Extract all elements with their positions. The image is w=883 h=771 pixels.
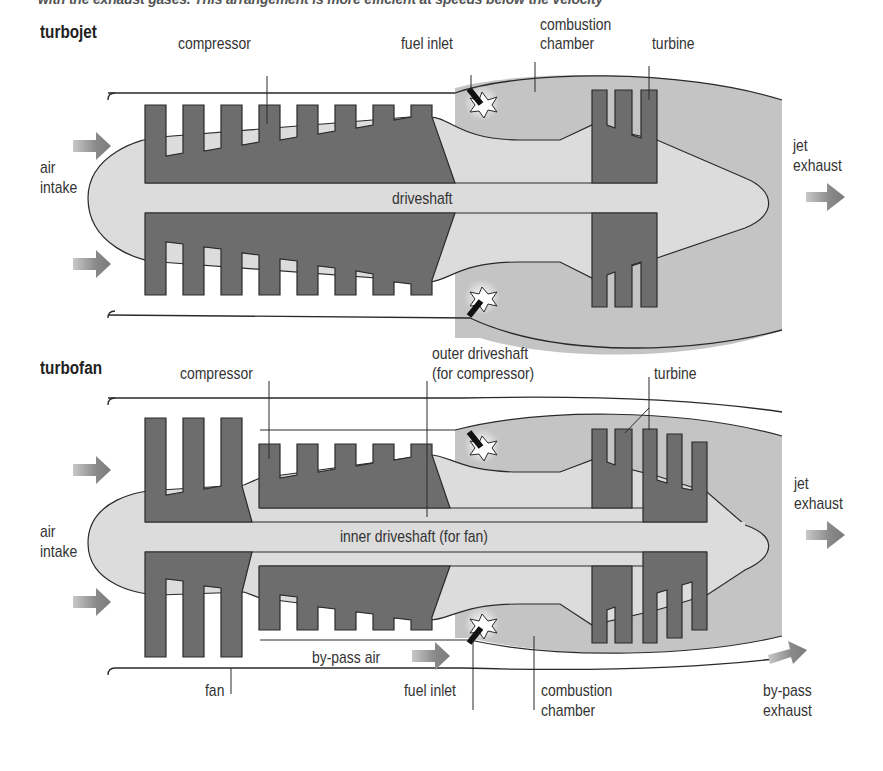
turbofan-inner-driveshaft-label: inner driveshaft (for fan) (340, 527, 488, 546)
turbojet-title: turbojet (40, 22, 97, 43)
turbojet-engine (73, 62, 845, 354)
turbojet-combustion-label-2: chamber (540, 34, 594, 53)
bypass-exhaust-label-2: exhaust (763, 701, 812, 720)
lp-turbine-bottom (643, 552, 707, 643)
turbojet-turbine-bottom (592, 213, 657, 307)
turbofan-outer-driveshaft-label-2: (for compressor) (432, 364, 534, 383)
turbojet-driveshaft-label: driveshaft (392, 189, 452, 208)
turbojet-air-label-1: air (40, 158, 56, 177)
turbojet-turbine-top (592, 90, 657, 183)
turbofan-compressor-label: compressor (180, 364, 253, 383)
air-intake-arrow-icon (73, 132, 111, 160)
fan-top (145, 418, 252, 522)
fuel-nozzle-icon (464, 85, 500, 121)
jet-exhaust-arrow-icon (806, 183, 845, 211)
turbojet-turbine-label: turbine (652, 34, 695, 53)
turbofan-title: turbofan (40, 358, 102, 379)
air-intake-arrow-icon (73, 456, 111, 484)
lp-turbine-top (643, 429, 707, 522)
bypass-air-label: by-pass air (312, 648, 380, 667)
turbofan-combustion-label-2: chamber (541, 701, 595, 720)
bypass-exhaust-label-1: by-pass (763, 681, 812, 700)
fan-label: fan (205, 681, 224, 700)
turbofan-air-label-2: intake (40, 542, 77, 561)
jet-exhaust-arrow-icon (806, 521, 845, 549)
turbojet-exhaust-label-2: exhaust (793, 156, 842, 175)
turbofan-air-label-1: air (40, 522, 56, 541)
turbojet-compressor-label: compressor (178, 34, 251, 53)
turbojet-compressor-bottom (145, 213, 455, 295)
turbofan-turbine-label: turbine (654, 364, 697, 383)
bypass-air-arrow-icon (412, 642, 450, 670)
turbojet-air-label-2: intake (40, 178, 77, 197)
turbofan-combustion-label-1: combustion (541, 681, 612, 700)
turbojet-combustion-label-1: combustion (540, 15, 611, 34)
fan-bottom (145, 552, 252, 657)
turbojet-fuel-inlet-label: fuel inlet (401, 34, 453, 53)
turbojet-jet-label-1: jet (793, 136, 808, 155)
turbofan-outer-driveshaft-label-1: outer driveshaft (432, 344, 528, 363)
turbofan-exhaust-label-2: exhaust (794, 494, 843, 513)
turbofan-jet-label-1: jet (794, 474, 809, 493)
turbofan-fuel-inlet-label: fuel inlet (404, 681, 456, 700)
air-intake-arrow-icon (73, 250, 111, 278)
fuel-nozzle-icon (464, 428, 500, 464)
engine-diagram (0, 0, 883, 771)
bypass-exhaust-arrow-icon (768, 641, 807, 664)
air-intake-arrow-icon (73, 588, 111, 616)
